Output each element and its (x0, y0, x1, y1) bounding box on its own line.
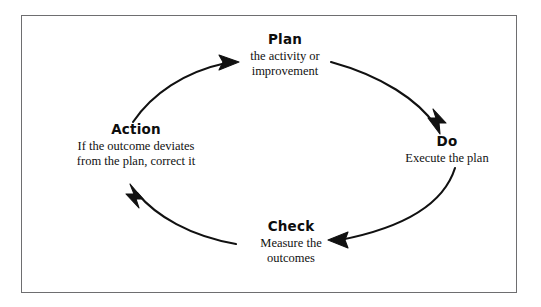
node-do-title: Do (386, 134, 508, 150)
node-plan: Plan the activity or improvement (224, 32, 346, 78)
arrow-check-to-action (126, 184, 236, 244)
node-action-description: If the outcome deviates from the plan, c… (46, 139, 226, 169)
pdca-cycle-diagram: Plan the activity or improvement Do Exec… (0, 0, 541, 307)
node-do-description: Execute the plan (386, 151, 508, 166)
node-check-title: Check (236, 219, 346, 235)
node-plan-title: Plan (224, 32, 346, 48)
node-do: Do Execute the plan (386, 134, 508, 166)
node-check-description: Measure the outcomes (236, 236, 346, 266)
node-action-title: Action (46, 122, 226, 138)
node-check: Check Measure the outcomes (236, 219, 346, 265)
arrow-do-to-check (328, 168, 455, 248)
node-plan-description: the activity or improvement (224, 49, 346, 79)
node-action: Action If the outcome deviates from the … (46, 122, 226, 168)
arrow-plan-to-do (331, 62, 446, 134)
